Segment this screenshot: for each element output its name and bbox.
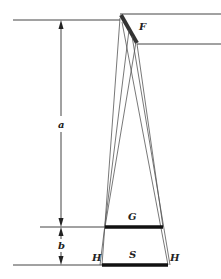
label-a: a	[58, 119, 64, 130]
optics-diagram: F a G b S H H	[0, 0, 221, 279]
label-h-right: H	[169, 252, 180, 263]
ray-left-mid	[100, 30, 129, 265]
label-b: b	[58, 240, 65, 251]
arrow-down-icon	[59, 256, 64, 265]
label-h-left: H	[91, 252, 102, 263]
label-s: S	[129, 249, 136, 260]
ray-right-mid	[132, 36, 170, 265]
label-g: G	[128, 211, 137, 222]
ray-left-inner	[105, 42, 136, 227]
arrow-up-icon	[59, 20, 64, 29]
label-f: F	[138, 21, 147, 32]
arrow-up-icon	[59, 227, 64, 236]
arrow-down-icon	[59, 218, 64, 227]
